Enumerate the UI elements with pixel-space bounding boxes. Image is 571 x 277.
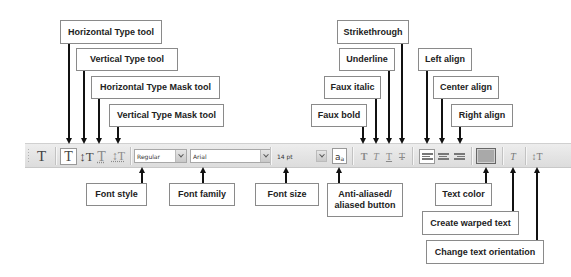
anti-aliased-leader-line <box>338 172 339 183</box>
arrow-down-icon <box>66 138 72 144</box>
arrow-down-icon <box>360 138 366 144</box>
underline-callout: Underline <box>339 48 395 71</box>
arrow-down-icon <box>81 138 87 144</box>
arrow-down-icon <box>439 138 445 144</box>
font-size-leader-line <box>285 172 286 183</box>
horizontal-type-tool-button[interactable]: T <box>60 148 77 165</box>
vertical-type-tool-callout: Vertical Type tool <box>76 48 178 71</box>
faux-italic-leader-line <box>375 99 376 139</box>
separator <box>412 147 413 165</box>
left-align-button[interactable] <box>419 149 435 164</box>
strikethrough-button[interactable]: T <box>397 149 407 164</box>
arrow-up-icon <box>139 167 145 173</box>
chevron-down-icon[interactable] <box>316 150 327 162</box>
text-orientation-icon[interactable]: ↕T <box>531 149 543 164</box>
anti-aliased-callout: Anti-aliased/ aliased button <box>327 183 403 217</box>
horizontal-type-mask-tool-button[interactable]: T <box>93 148 110 165</box>
font-style-leader-line <box>141 172 142 183</box>
vertical-type-mask-tool-button[interactable]: ↕T <box>110 148 127 165</box>
text-color-callout: Text color <box>435 183 492 206</box>
change-text-orientation-callout: Change text orientation <box>426 240 544 264</box>
type-options-toolbar: T T ↕T T ↕T Regular Arial 14 pt aa T T T… <box>25 143 571 168</box>
horizontal-type-mask-tool-callout: Horizontal Type Mask tool <box>91 76 220 99</box>
warp-text-icon[interactable]: T <box>507 149 519 164</box>
arrow-up-icon <box>483 167 489 173</box>
left-align-leader-line <box>426 71 427 139</box>
vertical-type-mask-tool-callout: Vertical Type Mask tool <box>109 104 224 127</box>
text-color-swatch[interactable] <box>476 148 496 164</box>
create-warped-text-callout: Create warped text <box>422 211 519 235</box>
center-align-leader-line <box>441 99 442 139</box>
vertical-type-tool-leader-line <box>83 71 84 139</box>
arrow-down-icon <box>457 138 463 144</box>
left-align-callout: Left align <box>418 48 472 71</box>
separator <box>471 147 472 165</box>
separator <box>352 147 353 165</box>
tool-preset-icon[interactable]: T <box>33 148 50 165</box>
font-size-select[interactable]: 14 pt <box>274 149 328 163</box>
arrow-up-icon <box>534 167 540 173</box>
strikethrough-leader-line <box>401 44 402 139</box>
font-family-leader-line <box>202 172 203 183</box>
text-color-leader-line <box>485 172 486 183</box>
separator <box>502 147 503 165</box>
separator <box>55 147 56 165</box>
faux-bold-button[interactable]: T <box>359 149 369 164</box>
font-size-callout: Font size <box>255 183 319 206</box>
right-align-callout: Right align <box>451 104 513 127</box>
arrow-down-icon <box>96 138 102 144</box>
underline-button[interactable]: T <box>384 149 394 164</box>
arrow-down-icon <box>373 138 379 144</box>
font-family-callout: Font family <box>169 183 235 206</box>
change-text-orientation-leader-line <box>536 172 537 240</box>
create-warped-text-leader-line <box>512 172 513 211</box>
faux-bold-callout: Faux bold <box>311 104 367 127</box>
font-style-callout: Font style <box>86 183 147 206</box>
strikethrough-callout: Strikethrough <box>337 20 409 44</box>
separator <box>130 147 131 165</box>
center-align-button[interactable] <box>435 149 451 164</box>
horizontal-type-tool-callout: Horizontal Type tool <box>60 20 162 44</box>
arrow-down-icon <box>115 138 121 144</box>
horizontal-type-mask-tool-leader-line <box>98 99 99 139</box>
arrow-down-icon <box>386 138 392 144</box>
underline-leader-line <box>388 71 389 139</box>
arrow-up-icon <box>336 167 342 173</box>
anti-alias-button[interactable]: aa <box>332 148 347 164</box>
faux-italic-button[interactable]: T <box>371 149 381 164</box>
toolbar-grip[interactable] <box>27 148 30 164</box>
arrow-up-icon <box>510 167 516 173</box>
arrow-up-icon <box>200 167 206 173</box>
separator <box>525 147 526 165</box>
font-style-select[interactable]: Regular <box>134 149 187 163</box>
chevron-down-icon[interactable] <box>175 150 186 162</box>
arrow-down-icon <box>424 138 430 144</box>
font-family-select[interactable]: Arial <box>190 149 272 163</box>
arrow-down-icon <box>399 138 405 144</box>
faux-italic-callout: Faux italic <box>324 76 381 99</box>
center-align-callout: Center align <box>433 76 499 99</box>
horizontal-type-tool-leader-line <box>68 44 69 139</box>
separator <box>270 147 271 165</box>
right-align-button[interactable] <box>451 149 467 164</box>
arrow-up-icon <box>283 167 289 173</box>
